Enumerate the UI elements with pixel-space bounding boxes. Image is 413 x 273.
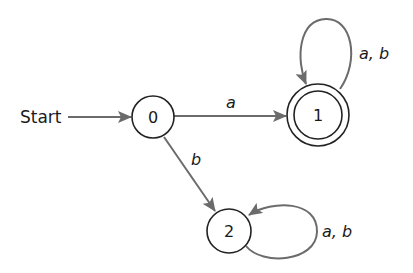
transition-0-to-1-label: a bbox=[226, 93, 236, 112]
state-0: 0 bbox=[132, 96, 174, 138]
transition-1-self-loop-label: a, b bbox=[359, 44, 389, 63]
transition-0-to-2-label: b bbox=[191, 150, 201, 169]
transition-2-self-loop-label: a, b bbox=[322, 222, 352, 241]
state-1-accepting: 1 bbox=[287, 84, 349, 146]
automaton-diagram: Start a b a, b a, b 0 1 2 bbox=[0, 0, 413, 273]
state-0-label: 0 bbox=[148, 108, 158, 127]
state-2: 2 bbox=[207, 209, 251, 253]
state-2-label: 2 bbox=[224, 222, 234, 241]
transition-1-self-loop bbox=[301, 19, 352, 89]
transition-0-to-2 bbox=[164, 137, 215, 211]
state-1-label: 1 bbox=[313, 106, 323, 125]
start-label: Start bbox=[20, 107, 62, 127]
transition-2-self-loop bbox=[246, 205, 317, 258]
